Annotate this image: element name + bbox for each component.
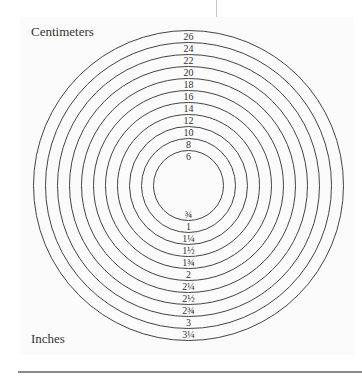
inch-label: 3: [169, 318, 209, 328]
cm-label: 20: [169, 68, 209, 78]
inch-label: ¾: [169, 210, 209, 220]
inch-label: 2: [169, 270, 209, 280]
inch-label: 3¼: [169, 330, 209, 340]
cm-label: 6: [169, 152, 209, 162]
cm-label: 14: [169, 104, 209, 114]
cm-label: 12: [169, 116, 209, 126]
cm-label: 24: [169, 44, 209, 54]
bottom-rule: [18, 371, 362, 373]
cm-label: 8: [169, 140, 209, 150]
inch-label: 1¼: [169, 234, 209, 244]
cm-label: 26: [169, 32, 209, 42]
cm-label: 16: [169, 92, 209, 102]
cm-label: 18: [169, 80, 209, 90]
inch-label: 1¾: [169, 258, 209, 268]
inch-label: 2¾: [169, 306, 209, 316]
inch-label: 1½: [169, 246, 209, 256]
inch-label: 2¼: [169, 282, 209, 292]
inch-label: 2½: [169, 294, 209, 304]
cm-label: 10: [169, 128, 209, 138]
cm-label: 22: [169, 56, 209, 66]
inch-label: 1: [169, 222, 209, 232]
